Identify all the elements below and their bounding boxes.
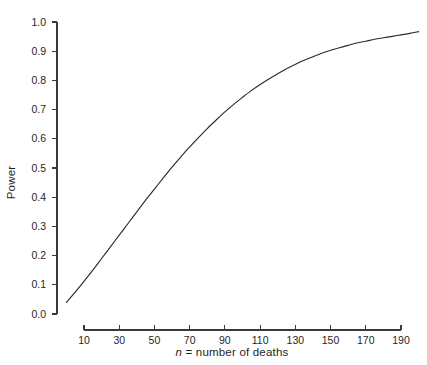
power-curve-line xyxy=(66,32,418,303)
plot-area xyxy=(0,0,427,365)
x-axis-ticks xyxy=(84,325,401,330)
y-axis-ticks xyxy=(52,22,57,314)
y-axis-group xyxy=(52,22,57,314)
power-curve-chart: Power n = number of deaths 0.00.10.20.30… xyxy=(0,0,427,365)
x-axis-group xyxy=(84,325,401,330)
